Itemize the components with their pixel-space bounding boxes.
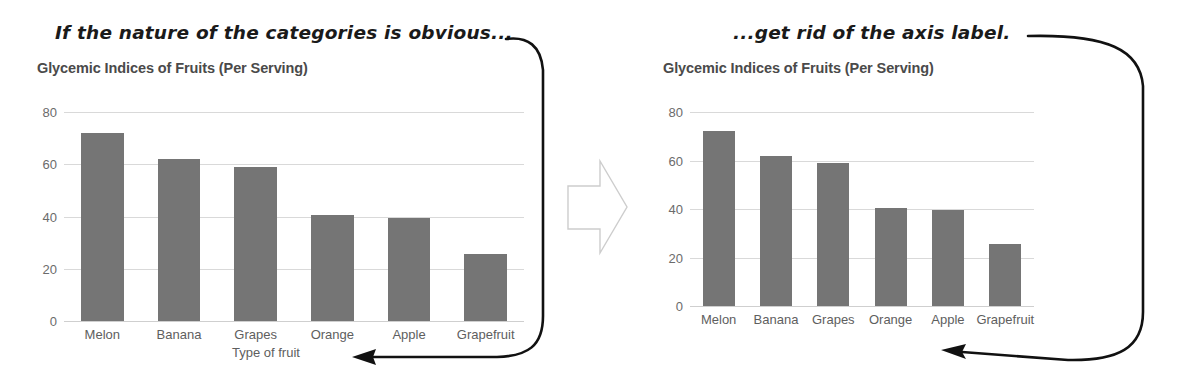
bar-group: Apple xyxy=(371,112,448,321)
bar-chart-before: Glycemic Indices of Fruits (Per Serving)… xyxy=(22,60,542,365)
bar-chart-after: Glycemic Indices of Fruits (Per Serving)… xyxy=(648,60,1048,350)
y-axis-tick-label: 0 xyxy=(50,314,57,329)
plot-area: 020406080MelonBananaGrapesOrangeAppleGra… xyxy=(690,112,1034,306)
bar-group: Banana xyxy=(141,112,218,321)
annotation-right: ...get rid of the axis label. xyxy=(733,22,1011,43)
plot-area: 020406080MelonBananaGrapesOrangeAppleGra… xyxy=(64,112,524,321)
y-axis-tick-label: 0 xyxy=(676,299,683,314)
x-axis-tick-label: Apple xyxy=(931,312,964,327)
x-axis-tick-label: Grapes xyxy=(812,312,855,327)
gridline xyxy=(64,321,524,322)
bar-series: MelonBananaGrapesOrangeAppleGrapefruit xyxy=(690,112,1034,306)
bar-series: MelonBananaGrapesOrangeAppleGrapefruit xyxy=(64,112,524,321)
x-axis-tick-label: Orange xyxy=(311,327,354,342)
bar[interactable] xyxy=(81,133,124,321)
bar[interactable] xyxy=(932,210,964,306)
x-axis-tick-label: Grapes xyxy=(234,327,277,342)
y-axis-tick-label: 20 xyxy=(669,250,683,265)
x-axis-tick-label: Banana xyxy=(157,327,202,342)
x-axis-tick-label: Grapefruit xyxy=(457,327,515,342)
y-axis-tick-label: 40 xyxy=(43,209,57,224)
gridline xyxy=(690,306,1034,307)
bar[interactable] xyxy=(703,131,735,306)
bar-group: Grapefruit xyxy=(447,112,524,321)
bar-group: Orange xyxy=(294,112,371,321)
chart-title: Glycemic Indices of Fruits (Per Serving) xyxy=(37,60,308,76)
bar-group: Melon xyxy=(64,112,141,321)
y-axis-tick-label: 60 xyxy=(669,153,683,168)
x-axis-tick-label: Banana xyxy=(754,312,799,327)
bar[interactable] xyxy=(875,208,907,306)
bar-group: Orange xyxy=(862,112,919,306)
annotation-left: If the nature of the categories is obvio… xyxy=(55,22,513,43)
bar-group: Grapes xyxy=(217,112,294,321)
y-axis-tick-label: 80 xyxy=(669,105,683,120)
chart-title: Glycemic Indices of Fruits (Per Serving) xyxy=(663,60,934,76)
bar-group: Melon xyxy=(690,112,747,306)
after-panel: ...get rid of the axis label. Glycemic I… xyxy=(620,0,1195,383)
bar-group: Grapefruit xyxy=(977,112,1034,306)
bar[interactable] xyxy=(234,167,277,321)
x-axis-tick-label: Orange xyxy=(869,312,912,327)
before-panel: If the nature of the categories is obvio… xyxy=(0,0,620,383)
y-axis-tick-label: 80 xyxy=(43,105,57,120)
bar[interactable] xyxy=(388,218,431,321)
bar-group: Banana xyxy=(747,112,804,306)
bar[interactable] xyxy=(311,215,354,321)
bar[interactable] xyxy=(989,244,1021,306)
y-axis-tick-label: 40 xyxy=(669,202,683,217)
bar[interactable] xyxy=(817,163,849,306)
x-axis-tick-label: Grapefruit xyxy=(976,312,1034,327)
y-axis-tick-label: 60 xyxy=(43,157,57,172)
x-axis-tick-label: Apple xyxy=(392,327,425,342)
x-axis-tick-label: Melon xyxy=(701,312,736,327)
bar-group: Apple xyxy=(919,112,976,306)
bar[interactable] xyxy=(464,254,507,321)
y-axis-tick-label: 20 xyxy=(43,261,57,276)
x-axis-tick-label: Melon xyxy=(85,327,120,342)
bar[interactable] xyxy=(760,156,792,306)
x-axis-title: Type of fruit xyxy=(232,345,300,360)
bar-group: Grapes xyxy=(805,112,862,306)
bar[interactable] xyxy=(158,159,201,321)
